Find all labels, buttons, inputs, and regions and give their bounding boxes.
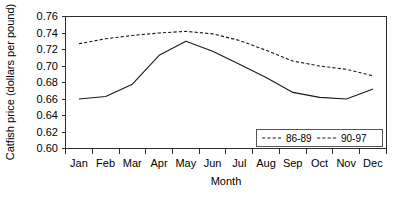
series-group [79, 31, 373, 99]
series-line-86-89 [79, 41, 373, 99]
y-tick-label: 0.60 [37, 142, 58, 154]
y-tick-7: 0.74 [37, 27, 66, 39]
x-tick-label: Jun [204, 157, 222, 169]
y-axis-ticks: 0.60 0.62 0.64 0.66 0.68 0.70 [37, 10, 66, 154]
x-tick-label: Dec [363, 157, 383, 169]
x-tick-label: Sep [283, 157, 303, 169]
y-tick-5: 0.70 [37, 60, 66, 72]
y-tick-1: 0.62 [37, 126, 66, 138]
y-tick-6: 0.72 [37, 43, 66, 55]
legend-label: 90-97 [341, 133, 367, 144]
catfish-price-chart: 0.60 0.62 0.64 0.66 0.68 0.70 [0, 0, 417, 198]
x-tick-label: May [175, 157, 196, 169]
x-axis-title: Month [211, 175, 242, 187]
x-tick-label: Mar [123, 157, 142, 169]
y-tick-label: 0.66 [37, 93, 58, 105]
x-tick-label: Apr [151, 157, 168, 169]
x-tick-label: Oct [311, 157, 328, 169]
y-tick-label: 0.74 [37, 27, 58, 39]
y-tick-2: 0.64 [37, 109, 66, 121]
x-tick-label: Jul [232, 157, 246, 169]
y-tick-label: 0.62 [37, 126, 58, 138]
chart-legend[interactable]: 86-89 90-97 [257, 130, 383, 147]
y-tick-label: 0.70 [37, 60, 58, 72]
y-tick-4: 0.68 [37, 76, 66, 88]
chart-canvas: 0.60 0.62 0.64 0.66 0.68 0.70 [0, 0, 417, 198]
series-line-90-97 [79, 31, 373, 76]
x-tick-label: Aug [256, 157, 276, 169]
y-tick-label: 0.76 [37, 10, 58, 22]
x-tick-label: Feb [96, 157, 115, 169]
y-axis-title: Catfish price (dollars per pound) [4, 4, 16, 161]
y-tick-label: 0.72 [37, 43, 58, 55]
y-tick-0: 0.60 [37, 142, 66, 154]
x-axis-tick-labels: Jan Feb Mar Apr May Jun Jul Aug Sep Oct … [70, 157, 383, 169]
plot-frame [66, 17, 387, 149]
y-tick-3: 0.66 [37, 93, 66, 105]
x-tick-label: Jan [70, 157, 88, 169]
y-tick-8: 0.76 [37, 10, 66, 22]
legend-label: 86-89 [286, 133, 312, 144]
y-tick-label: 0.68 [37, 76, 58, 88]
x-tick-label: Nov [336, 157, 356, 169]
y-tick-label: 0.64 [37, 109, 58, 121]
x-axis-ticks [66, 149, 387, 154]
